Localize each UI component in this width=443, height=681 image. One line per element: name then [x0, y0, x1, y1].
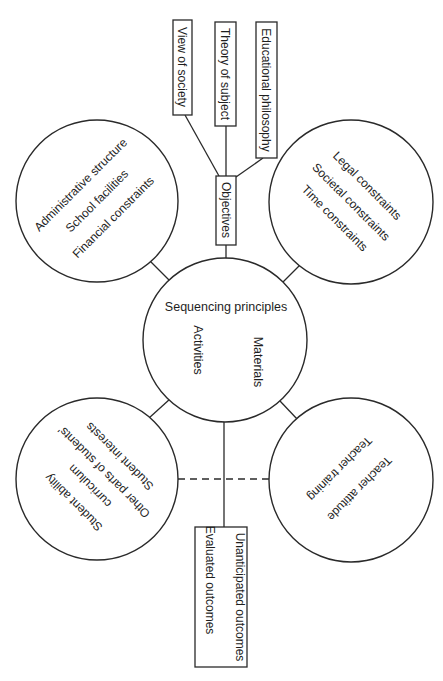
connector-philosophy-objectives [236, 158, 263, 177]
source-label-educational-philosophy: Educational philosophy [259, 28, 273, 151]
circle-student: Student ability Other parts of students'… [16, 398, 178, 560]
connector-topleft-center [150, 261, 169, 280]
source-box-view-of-society: View of society [173, 20, 192, 115]
objectives-label: Objectives [219, 182, 233, 238]
source-box-theory-of-subject: Theory of subject [215, 22, 236, 126]
outcomes-box: Unanticipated outcomes Evaluated outcome… [195, 526, 247, 667]
connector-bottomleft-center [149, 399, 170, 418]
center-materials: Materials [251, 337, 265, 388]
center-title: Sequencing principles [165, 300, 287, 314]
circle-constraints: Legal constraints Societal constraints T… [269, 120, 433, 284]
source-box-educational-philosophy: Educational philosophy [256, 22, 277, 158]
connector-topright-center [282, 265, 300, 283]
source-label-theory-of-subject: Theory of subject [218, 28, 232, 121]
outcome-evaluated: Evaluated outcomes [203, 526, 217, 635]
source-label-view-of-society: View of society [175, 27, 189, 107]
circle-center: Sequencing principles Activities Materia… [143, 258, 307, 422]
connector-view-objectives [185, 115, 219, 176]
objectives-box: Objectives [216, 176, 236, 245]
center-activities: Activities [191, 325, 205, 374]
outcome-unanticipated: Unanticipated outcomes [233, 533, 247, 662]
circle-teacher: Teacher attitude Teacher training [269, 398, 433, 562]
curriculum-diagram: View of society Theory of subject Educat… [0, 0, 443, 681]
circle-administrative: Administrative structure School faciliti… [16, 120, 178, 282]
connector-bottomright-center [280, 401, 298, 420]
